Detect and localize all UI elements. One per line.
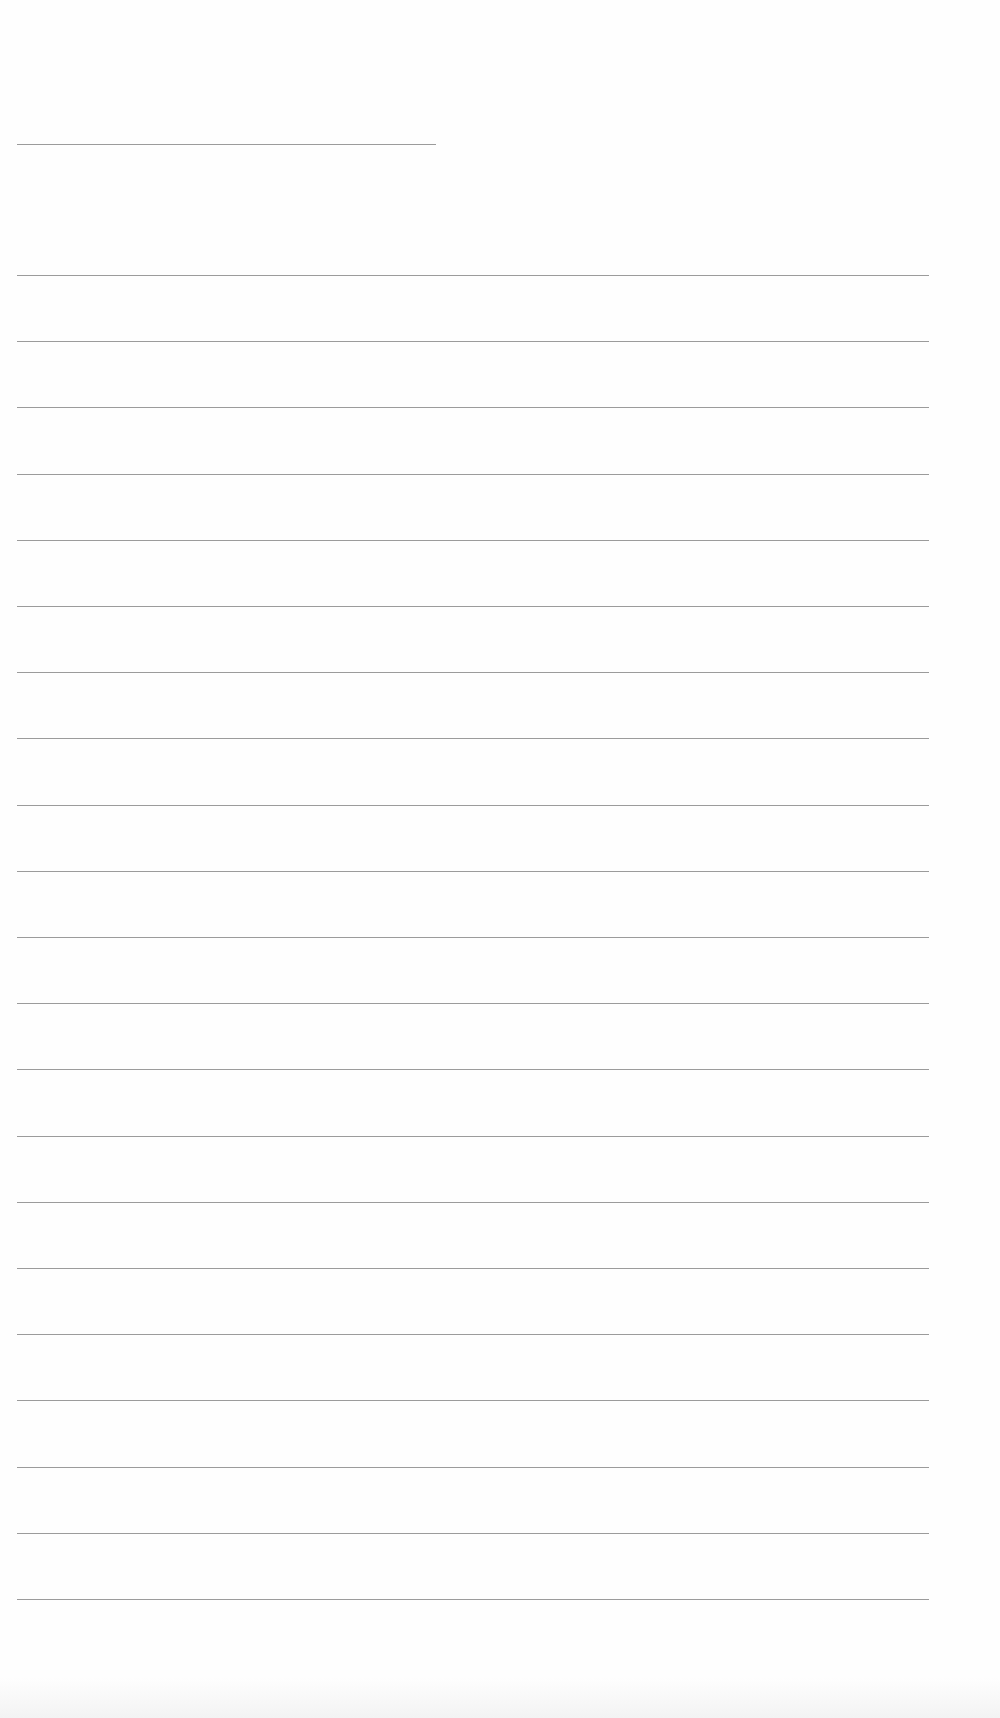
ruled-line [17, 1467, 929, 1468]
ruled-line [17, 937, 929, 938]
ruled-line [17, 1599, 929, 1600]
ruled-line [17, 1400, 929, 1401]
ruled-line [17, 672, 929, 673]
header-line [17, 144, 436, 145]
ruled-line [17, 606, 929, 607]
ruled-line [17, 1136, 929, 1137]
ruled-line [17, 1334, 929, 1335]
scan-edge-shadow [0, 1678, 1000, 1718]
ruled-line [17, 1069, 929, 1070]
ruled-line [17, 540, 929, 541]
ruled-line [17, 474, 929, 475]
ruled-line [17, 275, 929, 276]
ruled-line [17, 1003, 929, 1004]
ruled-line [17, 805, 929, 806]
ruled-line [17, 738, 929, 739]
ruled-line [17, 341, 929, 342]
ruled-line [17, 1533, 929, 1534]
ruled-line [17, 1268, 929, 1269]
ruled-line [17, 407, 929, 408]
ruled-line [17, 1202, 929, 1203]
ruled-line [17, 871, 929, 872]
lined-paper-sheet [0, 0, 1000, 1718]
